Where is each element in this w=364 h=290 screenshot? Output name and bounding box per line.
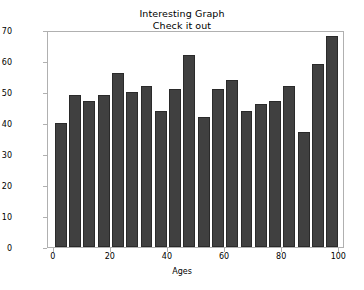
histogram-bar [255, 104, 267, 247]
x-tick-label: 20 [90, 252, 130, 261]
histogram-bar [83, 101, 95, 247]
x-tick-mark [338, 248, 339, 252]
x-tick-label: 60 [204, 252, 244, 261]
histogram-bar [55, 123, 67, 247]
x-tick-mark [224, 248, 225, 252]
chart-title: Interesting Graph [0, 8, 364, 20]
histogram-bar [155, 111, 167, 247]
x-tick-label: 40 [147, 252, 187, 261]
chart-figure: Interesting Graph Check it out Frequency… [0, 0, 364, 290]
y-tick-label: 50 [0, 89, 12, 98]
histogram-bar [183, 55, 195, 247]
x-tick-label: 80 [261, 252, 301, 261]
chart-title-block: Interesting Graph Check it out [0, 8, 364, 32]
y-tick-label: 0 [0, 244, 12, 253]
plot-area [47, 31, 344, 248]
histogram-bar [198, 117, 210, 247]
x-tick-mark [110, 248, 111, 252]
histogram-bar [283, 86, 295, 247]
y-tick-label: 40 [0, 120, 12, 129]
y-tick-label: 20 [0, 182, 12, 191]
x-tick-label: 0 [33, 252, 73, 261]
histogram-bar [112, 73, 124, 247]
histogram-bar [98, 95, 110, 247]
histogram-bar [241, 111, 253, 247]
histogram-bar [126, 92, 138, 247]
histogram-bar [69, 95, 81, 247]
bars-container [48, 32, 343, 247]
histogram-bar [212, 89, 224, 247]
histogram-bar [169, 89, 181, 247]
y-tick-label: 10 [0, 213, 12, 222]
histogram-bar [298, 132, 310, 247]
x-axis-label: Ages [0, 267, 364, 276]
y-tick-label: 30 [0, 151, 12, 160]
x-tick-mark [167, 248, 168, 252]
histogram-bar [141, 86, 153, 247]
x-tick-label: 100 [318, 252, 358, 261]
y-tick-mark [43, 248, 47, 249]
x-tick-mark [53, 248, 54, 252]
x-tick-mark [281, 248, 282, 252]
y-tick-label: 70 [0, 27, 12, 36]
y-tick-label: 60 [0, 58, 12, 67]
histogram-bar [326, 36, 338, 247]
histogram-bar [312, 64, 324, 247]
histogram-bar [269, 101, 281, 247]
histogram-bar [226, 80, 238, 247]
